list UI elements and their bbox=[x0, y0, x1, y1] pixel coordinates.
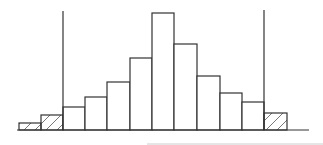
hatched-tail-bar bbox=[19, 123, 41, 130]
histogram-bar bbox=[152, 13, 174, 130]
histogram-bar bbox=[197, 76, 220, 130]
histogram-bar bbox=[220, 93, 242, 130]
histogram-bar bbox=[63, 107, 85, 130]
hatched-tail-bar bbox=[41, 115, 63, 130]
histogram-chart bbox=[0, 0, 323, 145]
hatched-tail-bar bbox=[264, 113, 287, 130]
histogram-bar bbox=[107, 82, 130, 130]
histogram-bars bbox=[19, 13, 287, 130]
histogram-bar bbox=[130, 58, 152, 130]
histogram-bar bbox=[174, 44, 197, 130]
histogram-bar bbox=[85, 97, 107, 130]
histogram-bar bbox=[242, 102, 264, 130]
